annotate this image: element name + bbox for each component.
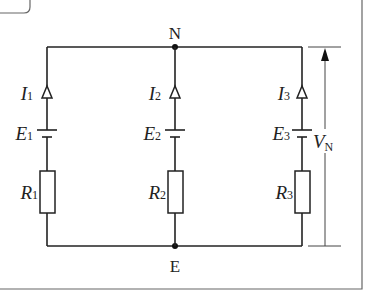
current-arrow-icon — [42, 86, 52, 98]
voltage-label: VN — [313, 131, 334, 154]
voltage-indicator: VN — [308, 47, 341, 246]
branch-1: I1 E1 R1 — [14, 47, 57, 246]
resistor-label: R3 — [274, 182, 293, 203]
current-label: I1 — [20, 83, 33, 104]
resistor-icon — [168, 171, 183, 213]
branch-2: I2 E2 R2 — [142, 47, 185, 246]
top-left-tab-frame — [0, 0, 30, 13]
current-arrow-icon — [170, 86, 180, 98]
node-n-label: N — [169, 24, 181, 43]
resistor-icon — [40, 171, 55, 213]
branch-3: I3 E3 R3 — [271, 47, 312, 246]
current-label: I3 — [277, 83, 290, 104]
current-arrow-icon — [297, 86, 307, 98]
current-label: I2 — [148, 83, 161, 104]
resistor-label: R1 — [19, 182, 38, 203]
circuit-diagram: N E I1 E1 R1 I2 E2 R2 I — [0, 0, 372, 296]
emf-label: E3 — [271, 123, 290, 144]
resistor-label: R2 — [147, 182, 166, 203]
voltage-arrow-icon — [321, 48, 329, 61]
node-e-label: E — [170, 257, 180, 276]
resistor-icon — [295, 171, 310, 213]
emf-label: E1 — [14, 123, 33, 144]
emf-label: E2 — [142, 123, 161, 144]
